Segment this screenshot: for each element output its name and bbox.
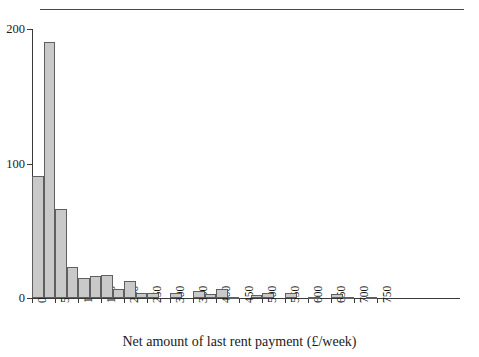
y-tick-label-wrap: 0 (0, 292, 25, 304)
histogram-bar (308, 297, 320, 299)
y-tick-label-wrap: 200 (0, 23, 25, 35)
x-tick-label: 700 (359, 286, 370, 303)
histogram-figure: 0100200 05010015020025030035040045050055… (0, 0, 479, 357)
histogram-bar (262, 293, 274, 298)
histogram-bar (170, 293, 182, 298)
histogram-bar (113, 289, 125, 298)
histogram-bar (78, 278, 90, 298)
x-tick-400 (216, 299, 217, 303)
x-tick-550 (285, 299, 286, 303)
histogram-bar (90, 276, 102, 298)
x-axis-label: Net amount of last rent payment (£/week) (0, 334, 479, 350)
histogram-bar (55, 209, 67, 298)
y-tick-label: 200 (0, 23, 25, 35)
x-tick-300 (170, 299, 171, 303)
x-tick-750 (377, 299, 378, 303)
x-tick-350 (193, 299, 194, 303)
histogram-bar (205, 294, 217, 298)
x-tick-650 (331, 299, 332, 303)
histogram-bar (67, 267, 79, 298)
histogram-bar (44, 42, 56, 298)
x-tick-50 (55, 299, 56, 303)
histogram-bar (285, 293, 297, 298)
y-tick-label: 100 (0, 158, 25, 170)
x-tick-100 (78, 299, 79, 303)
histogram-bar (193, 291, 205, 298)
y-tick-100 (27, 164, 32, 165)
histogram-bar (251, 295, 263, 298)
x-tick-label: 750 (382, 286, 393, 303)
y-tick-label: 0 (0, 292, 25, 304)
histogram-bar (331, 294, 343, 298)
y-tick-label-wrap: 100 (0, 158, 25, 170)
x-tick-700 (354, 299, 355, 303)
histogram-bar (228, 297, 240, 299)
histogram-bar (101, 275, 113, 298)
histogram-bar (366, 297, 378, 299)
x-tick-0 (32, 299, 33, 303)
histogram-bar (216, 289, 228, 298)
x-tick-label: 600 (313, 286, 324, 303)
x-tick-250 (147, 299, 148, 303)
x-tick-450 (239, 299, 240, 303)
histogram-bar (124, 281, 136, 298)
histogram-bar (32, 176, 44, 298)
x-tick-label: 0 (37, 297, 48, 303)
histogram-bar (136, 293, 148, 298)
histogram-bar (343, 297, 355, 299)
y-tick-200 (27, 29, 32, 30)
histogram-bar (147, 293, 159, 298)
plot-area: 0100200 05010015020025030035040045050055… (0, 0, 479, 357)
x-tick-600 (308, 299, 309, 303)
x-tick-200 (124, 299, 125, 303)
x-tick-500 (262, 299, 263, 303)
x-tick-150 (101, 299, 102, 303)
